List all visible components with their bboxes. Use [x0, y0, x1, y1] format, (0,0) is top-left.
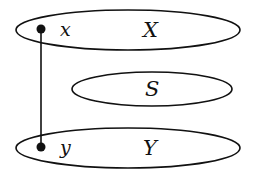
- point-y: [37, 143, 46, 152]
- set-y-label: Y: [143, 136, 159, 160]
- point-x-label: x: [60, 18, 71, 40]
- set-x-ellipse: [16, 10, 240, 50]
- point-y-label: y: [59, 136, 71, 158]
- set-diagram: x X S y Y: [0, 0, 257, 174]
- set-s-label: S: [145, 77, 159, 101]
- set-y-ellipse: [16, 128, 240, 168]
- set-x-label: X: [141, 18, 159, 42]
- point-x: [37, 25, 46, 34]
